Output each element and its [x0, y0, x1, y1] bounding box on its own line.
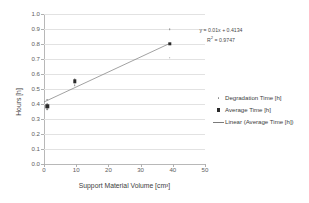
- y-tick-label: 0.8: [32, 41, 40, 47]
- data-point-marker: [169, 57, 171, 59]
- data-point-marker: [46, 99, 48, 101]
- data-point-marker: [74, 84, 76, 86]
- trendline-linear-average-time: [44, 14, 205, 164]
- x-tick-label: 10: [73, 167, 80, 173]
- x-tick-label: 30: [137, 167, 144, 173]
- legend-item[interactable]: Degradation Time [h]: [212, 92, 307, 104]
- data-point-marker: [46, 108, 48, 110]
- data-point-marker: [169, 28, 171, 30]
- legend-item-label: Average Time [h]: [225, 107, 271, 113]
- legend-glyph: [217, 108, 220, 111]
- regression-equation: y = 0.01x + 0.4134: [189, 27, 253, 35]
- x-tick-label: 0: [42, 167, 45, 173]
- r-squared-number: = 0.9747: [213, 36, 235, 42]
- y-tick-label: 0.4: [32, 101, 40, 107]
- plot-area: [44, 14, 205, 164]
- chart-container: Hours [h] 0.00.10.20.30.40.50.60.70.80.9…: [0, 0, 309, 203]
- legend-item-label: Linear (Average Time [h]): [225, 119, 294, 125]
- data-point-marker: [168, 42, 171, 45]
- x-axis-tick-labels: 01020304050: [44, 167, 205, 177]
- y-tick-label: 1.0: [32, 11, 40, 17]
- legend-item[interactable]: Linear (Average Time [h]): [212, 116, 307, 128]
- data-point-marker: [46, 105, 49, 108]
- legend-marker-line-icon: [212, 116, 225, 128]
- r-squared-value: R2 = 0.9747: [189, 35, 253, 44]
- y-tick-label: 0.2: [32, 131, 40, 137]
- x-tick-label: 40: [169, 167, 176, 173]
- legend-marker-dot-icon: [212, 92, 225, 104]
- y-tick-label: 0.3: [32, 116, 40, 122]
- y-tick-label: 0.6: [32, 71, 40, 77]
- legend-item[interactable]: Average Time [h]: [212, 104, 307, 116]
- chart-legend: Degradation Time [h]Average Time [h]Line…: [212, 92, 307, 128]
- y-axis-tick-labels: 0.00.10.20.30.40.50.60.70.80.91.0: [22, 14, 40, 164]
- data-point-marker: [73, 79, 76, 82]
- legend-glyph: [213, 122, 224, 123]
- y-tick-label: 0.1: [32, 146, 40, 152]
- y-tick-label: 0.0: [32, 161, 40, 167]
- legend-item-label: Degradation Time [h]: [225, 95, 282, 101]
- x-tick-label: 50: [202, 167, 209, 173]
- x-axis-title: Support Material Volume [cm³]: [44, 182, 205, 189]
- y-tick-label: 0.9: [32, 26, 40, 32]
- y-tick-label: 0.7: [32, 56, 40, 62]
- x-tick-label: 20: [105, 167, 112, 173]
- legend-marker-square-icon: [212, 104, 225, 116]
- trendline-equation-annotation: y = 0.01x + 0.4134 R2 = 0.9747: [189, 27, 253, 44]
- y-tick-label: 0.5: [32, 86, 40, 92]
- legend-glyph: [218, 97, 220, 99]
- gridline: [44, 164, 205, 165]
